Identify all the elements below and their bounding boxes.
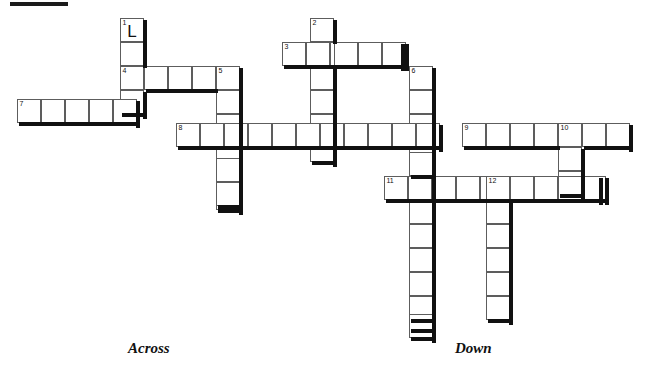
grid-cell[interactable]: [409, 200, 433, 224]
cell-number-7: 7: [20, 100, 24, 108]
grid-edge-right: [333, 20, 337, 44]
cell-number-8: 8: [179, 124, 183, 132]
grid-edge-bottom: [411, 175, 435, 179]
grid-edge-right: [432, 274, 436, 298]
grid-cell[interactable]: 4: [120, 66, 144, 90]
grid-cell[interactable]: 2: [310, 18, 334, 42]
grid-edge-right: [143, 44, 147, 68]
grid-edge-bottom: [360, 65, 384, 69]
grid-edge-bottom: [170, 89, 194, 93]
grid-cell[interactable]: [320, 123, 344, 147]
grid-cell[interactable]: [534, 176, 558, 200]
grid-edge-right: [143, 20, 147, 44]
grid-cell[interactable]: [392, 123, 416, 147]
grid-cell[interactable]: 1L: [120, 18, 144, 42]
grid-cell[interactable]: [486, 123, 510, 147]
grid-edge-bottom: [226, 146, 250, 150]
grid-cell[interactable]: 9: [462, 123, 486, 147]
grid-edge-bottom: [122, 113, 146, 117]
grid-cell[interactable]: [510, 123, 534, 147]
grid-cell[interactable]: [216, 182, 240, 206]
grid-cell[interactable]: [409, 152, 433, 176]
grid-cell[interactable]: [558, 147, 582, 171]
grid-edge-bottom: [322, 146, 346, 150]
grid-cell[interactable]: [456, 176, 480, 200]
grid-cell[interactable]: 3: [282, 42, 306, 66]
grid-cell[interactable]: [486, 200, 510, 224]
grid-edge-bottom: [336, 65, 360, 69]
grid-cell[interactable]: [310, 66, 334, 90]
grid-cell[interactable]: [486, 296, 510, 320]
grid-cell[interactable]: [510, 176, 534, 200]
grid-cell[interactable]: [409, 272, 433, 296]
grid-edge-bottom: [218, 205, 242, 209]
grid-cell[interactable]: 7: [17, 99, 41, 123]
grid-cell[interactable]: [409, 224, 433, 248]
grid-cell[interactable]: [248, 123, 272, 147]
grid-cell[interactable]: [486, 224, 510, 248]
grid-cell[interactable]: [432, 176, 456, 200]
grid-edge-bottom: [512, 146, 536, 150]
grid-cell[interactable]: 5: [216, 66, 240, 90]
cell-number-12: 12: [489, 177, 497, 185]
grid-cell[interactable]: [41, 99, 65, 123]
grid-cell[interactable]: [486, 248, 510, 272]
grid-edge-bottom: [250, 146, 274, 150]
cell-number-6: 6: [412, 67, 416, 75]
grid-edge-bottom: [536, 146, 560, 150]
grid-cell[interactable]: 8: [176, 123, 200, 147]
grid-edge-bottom: [194, 89, 218, 93]
grid-edge-bottom: [560, 199, 584, 203]
down-caption: Down: [455, 340, 492, 357]
cell-number-3: 3: [285, 43, 289, 51]
grid-edge-bottom: [146, 89, 170, 93]
grid-edge-bottom: [370, 146, 394, 150]
grid-cell[interactable]: [168, 66, 192, 90]
grid-cell[interactable]: [409, 248, 433, 272]
grid-edge-bottom: [115, 122, 139, 126]
grid-cell[interactable]: [216, 90, 240, 114]
grid-cell[interactable]: [344, 123, 368, 147]
grid-cell[interactable]: [416, 123, 440, 147]
grid-cell[interactable]: 11: [384, 176, 408, 200]
grid-cell[interactable]: [409, 90, 433, 114]
grid-edge-right: [432, 250, 436, 274]
grid-cell[interactable]: [89, 99, 113, 123]
grid-cell[interactable]: [358, 42, 382, 66]
grid-cell[interactable]: [486, 272, 510, 296]
grid-cell[interactable]: [606, 123, 630, 147]
grid-edge-right: [239, 68, 243, 92]
grid-cell[interactable]: 6: [409, 66, 433, 90]
grid-cell[interactable]: [306, 42, 330, 66]
grid-cell[interactable]: [534, 123, 558, 147]
grid-edge-bottom: [434, 199, 458, 203]
grid-cell[interactable]: [120, 42, 144, 66]
grid-cell[interactable]: 12: [486, 176, 510, 200]
grid-cell[interactable]: [200, 123, 224, 147]
grid-cell[interactable]: [144, 66, 168, 90]
grid-edge-right: [509, 226, 513, 250]
grid-cell[interactable]: [216, 158, 240, 182]
grid-edge-bottom: [394, 146, 418, 150]
grid-cell[interactable]: [408, 176, 432, 200]
grid-edge-bottom: [386, 199, 410, 203]
grid-cell[interactable]: [582, 123, 606, 147]
grid-cell[interactable]: 10: [558, 123, 582, 147]
grid-cell[interactable]: [296, 123, 320, 147]
grid-cell[interactable]: [224, 123, 248, 147]
grid-cell[interactable]: [334, 42, 358, 66]
grid-cell[interactable]: [310, 90, 334, 114]
grid-cell[interactable]: [113, 99, 137, 123]
grid-edge-bottom: [43, 122, 67, 126]
grid-cell[interactable]: [272, 123, 296, 147]
grid-edge-bottom: [411, 337, 435, 341]
grid-edge-bottom: [384, 65, 408, 69]
grid-cell[interactable]: [65, 99, 89, 123]
grid-edge-bottom: [178, 146, 202, 150]
grid-cell[interactable]: [192, 66, 216, 90]
grid-edge-right: [509, 274, 513, 298]
grid-cell[interactable]: [409, 314, 433, 338]
grid-edge-bottom: [274, 146, 298, 150]
grid-cell[interactable]: [368, 123, 392, 147]
grid-edge-bottom: [464, 146, 488, 150]
